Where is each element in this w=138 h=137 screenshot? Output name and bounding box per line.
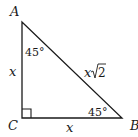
vertex-label-a: A (9, 4, 19, 19)
side-label-ab-radicand: 2 (98, 66, 106, 80)
triangle-shape (22, 22, 122, 118)
vertex-label-c: C (8, 118, 18, 133)
triangle-diagram: A C B 45° 45° x x x 2 (0, 0, 138, 137)
right-angle-marker (22, 109, 31, 118)
side-label-ab: x 2 (84, 64, 106, 80)
vertex-label-b: B (129, 118, 138, 133)
angle-label-b: 45° (88, 106, 108, 119)
side-label-ac: x (9, 64, 17, 79)
side-label-ab-x: x (84, 65, 92, 80)
angle-label-a: 45° (25, 46, 45, 59)
side-label-cb: x (66, 120, 74, 135)
